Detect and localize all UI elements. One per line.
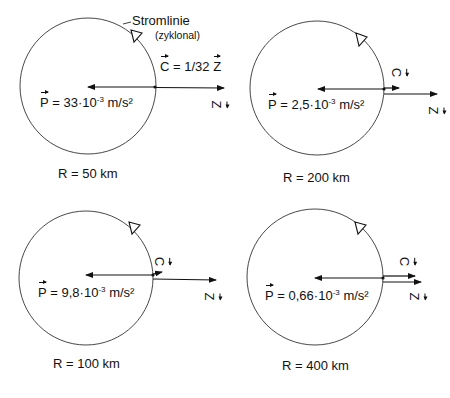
point-dot: [151, 273, 154, 276]
flow-direction-triangle-icon: [356, 33, 367, 46]
panel-r200: [250, 21, 437, 155]
coriolis-vector-arrow: [153, 272, 162, 274]
centrifugal-label: Z: [411, 290, 419, 303]
unit: m/s²: [108, 95, 133, 110]
centrifugal-symbol: Z: [203, 293, 216, 301]
equals-sign: =: [50, 285, 58, 300]
coriolis-label: C: [155, 255, 164, 268]
radius-prefix: R =: [283, 170, 304, 185]
panel-r400: [247, 209, 421, 345]
point-dot: [381, 276, 384, 279]
centrifugal-label: Z: [213, 98, 221, 111]
radius-value: 50 km: [82, 166, 117, 181]
pressure-symbol: P: [268, 98, 277, 111]
pressure-label: P = 2,5·10-3 m/s²: [268, 98, 364, 111]
unit: m/s²: [109, 285, 134, 300]
coriolis-symbol: C: [390, 68, 403, 77]
pressure-label: P = 33·10-3 m/s²: [40, 96, 133, 109]
times-ten: ·10: [80, 285, 99, 300]
times-ten: ·10: [78, 95, 97, 110]
pressure-label: P = 9,8·10-3 m/s²: [38, 286, 134, 299]
pressure-value: 2,5: [292, 97, 310, 112]
centrifugal-vector-arrow: [155, 88, 224, 89]
centrifugal-symbol: Z: [427, 107, 440, 115]
radius-prefix: R =: [282, 358, 303, 373]
radius-label: R = 400 km: [282, 359, 349, 372]
centrifugal-symbol: Z: [210, 101, 223, 109]
coriolis-label: C: [392, 66, 401, 79]
pressure-symbol: P: [38, 286, 47, 299]
centrifugal-vector-arrow: [153, 279, 216, 280]
coriolis-ratio-label: C = 1/32 Z: [160, 60, 221, 73]
centrifugal-symbol: Z: [408, 293, 421, 301]
times-ten: ·10: [310, 97, 329, 112]
point-dot: [382, 87, 385, 90]
centrifugal-symbol: Z: [213, 60, 221, 73]
point-dot: [153, 85, 156, 88]
radius-label: R = 200 km: [283, 171, 350, 184]
flow-direction-triangle-icon: [355, 222, 366, 234]
radius-value: 400 km: [306, 358, 349, 373]
pressure-value: 9,8: [62, 285, 80, 300]
radius-label: R = 50 km: [58, 167, 118, 180]
streamline-type-label: (zyklonal): [155, 30, 200, 41]
equals-sign: =: [280, 97, 288, 112]
exponent: -3: [97, 95, 104, 104]
exponent: -3: [328, 97, 335, 106]
radius-value: 100 km: [77, 356, 120, 371]
pressure-value: 0,66: [289, 288, 314, 303]
radius-prefix: R =: [53, 356, 74, 371]
coriolis-symbol: C: [153, 257, 166, 266]
exponent: -3: [333, 288, 340, 297]
exponent: -3: [98, 285, 105, 294]
pressure-symbol: P: [40, 96, 49, 109]
radius-value: 200 km: [307, 170, 350, 185]
unit: m/s²: [343, 288, 368, 303]
flow-direction-triangle-icon: [131, 30, 142, 42]
coriolis-label: C: [400, 255, 409, 268]
ratio-text: = 1/32: [173, 59, 210, 74]
pressure-symbol: P: [265, 289, 274, 302]
radius-label: R = 100 km: [53, 357, 120, 370]
pressure-value: 33: [64, 95, 78, 110]
pressure-label: P = 0,66·10-3 m/s²: [265, 289, 369, 302]
unit: m/s²: [339, 97, 364, 112]
centrifugal-label: Z: [430, 104, 438, 117]
diagram-canvas: [0, 0, 450, 398]
equals-sign: =: [277, 288, 285, 303]
coriolis-symbol: C: [398, 257, 411, 266]
times-ten: ·10: [314, 288, 333, 303]
equals-sign: =: [52, 95, 60, 110]
streamline-leader-line: [123, 22, 131, 24]
streamline-label: Stromlinie: [132, 14, 190, 27]
panel-r100: [19, 211, 216, 345]
centrifugal-label: Z: [206, 290, 214, 303]
coriolis-symbol: C: [160, 60, 169, 73]
radius-prefix: R =: [58, 166, 79, 181]
